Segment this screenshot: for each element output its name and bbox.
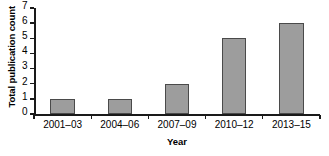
bar — [165, 84, 190, 114]
x-axis-title: Year — [34, 137, 320, 147]
x-axis-tick — [319, 115, 320, 119]
x-axis-tick — [148, 115, 149, 119]
x-axis-category-label: 2004–06 — [91, 120, 148, 130]
y-axis-tick: 3 — [30, 68, 34, 69]
bar — [222, 38, 247, 114]
bar — [50, 99, 75, 114]
y-axis-tick-label: 1 — [22, 92, 28, 102]
y-axis-tick-label: 6 — [22, 16, 28, 26]
y-axis-tick: 7 — [30, 7, 34, 8]
y-axis-tick-label: 5 — [22, 31, 28, 41]
bar — [279, 23, 304, 114]
y-axis-tick: 2 — [30, 83, 34, 84]
y-axis-tick: 6 — [30, 22, 34, 23]
x-axis-tick — [205, 115, 206, 119]
y-axis-spine — [34, 8, 36, 114]
x-axis-spine — [34, 114, 320, 116]
y-axis-title: Total publication count — [7, 0, 17, 115]
plot-area: 01234567 2001–032004–062007–092010–12201… — [34, 8, 320, 114]
x-axis-category-label: 2001–03 — [34, 120, 91, 130]
x-axis-category-label: 2013–15 — [263, 120, 320, 130]
x-axis-category-label: 2010–12 — [206, 120, 263, 130]
y-axis-tick-label: 2 — [22, 77, 28, 87]
y-axis-tick-label: 7 — [22, 1, 28, 11]
x-axis-tick — [262, 115, 263, 119]
x-axis-tick — [91, 115, 92, 119]
bar — [108, 99, 133, 114]
x-axis-category-label: 2007–09 — [148, 120, 205, 130]
y-axis-tick: 5 — [30, 38, 34, 39]
y-axis-tick: 4 — [30, 53, 34, 54]
bar-chart-figure: Total publication count 01234567 2001–03… — [0, 0, 329, 156]
x-axis-tick — [33, 115, 34, 119]
y-axis-tick-label: 0 — [22, 107, 28, 117]
y-axis-tick-label: 3 — [22, 61, 28, 71]
y-axis-tick: 1 — [30, 98, 34, 99]
y-axis-tick-label: 4 — [22, 46, 28, 56]
